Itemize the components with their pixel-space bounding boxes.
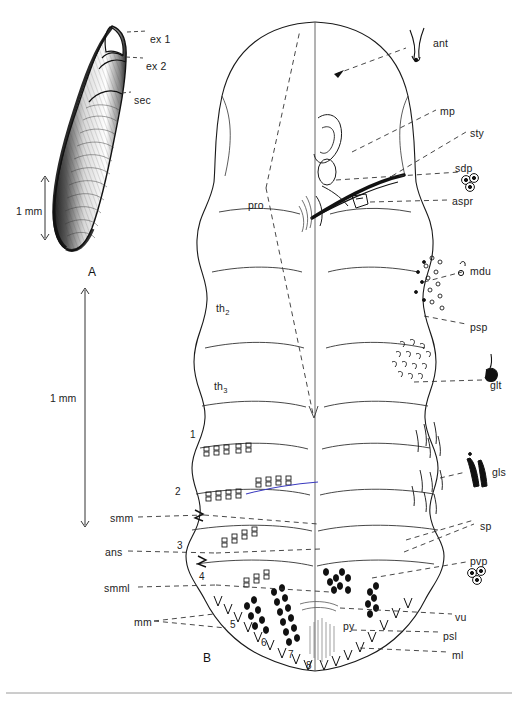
segment-number-3: 3 [177,541,183,551]
segment-number-7: 7 [288,650,294,660]
blue-annotation-line [246,482,318,494]
label-py: py [343,621,355,632]
label-ml: ml [452,650,463,661]
label-sp: sp [480,521,492,532]
label-th2-base: th [216,302,225,314]
label-mdu: mdu [470,266,491,277]
label-th3: th3 [214,381,228,395]
scalebar-b [81,288,89,527]
label-th2: th2 [216,303,230,317]
segment-number-8: 8 [306,661,312,671]
label-sdp: sdp [455,163,473,174]
duct-clusters-right [300,256,444,617]
aspiracle-icon [352,194,368,208]
label-ans: ans [105,547,123,558]
segment-number-2: 2 [175,487,181,497]
label-mm: mm [134,617,152,628]
pygidial-fringe [214,596,412,670]
label-th3-subscript: 3 [223,386,227,395]
segment-number-5: 5 [230,620,236,630]
label-smml: smml [104,583,130,594]
segment-number-1: 1 [190,430,196,440]
mdu-icon [458,262,465,276]
segment-number-4: 4 [199,572,205,582]
mouthparts-group [299,28,424,232]
label-pro: pro [248,200,264,211]
antenna-icon [410,28,424,62]
label-sec: sec [134,95,151,106]
segment-number-6: 6 [261,638,267,648]
panel-a-artwork [54,26,127,251]
label-mp: mp [440,106,455,117]
label-ex1: ex 1 [150,34,171,45]
panel-b-artwork [186,22,444,671]
figure-canvas: ex 1 ex 2 sec 1 mm 1 mm A B smm ans smml… [0,0,525,705]
label-smm: smm [110,513,133,524]
label-psp: psp [470,322,488,333]
label-ex2: ex 2 [146,61,167,72]
label-aspr: aspr [452,196,473,207]
mp-arrow-tip [334,70,344,78]
label-ant: ant [433,38,448,49]
panel-label-a: A [88,265,96,279]
glt-icon [485,354,497,382]
duct-clusters-left [204,443,300,645]
pvp-pore-icon [468,567,486,585]
label-th2-subscript: 2 [225,308,229,317]
label-vu: vu [455,612,467,623]
label-pvp: pvp [470,556,488,567]
gls-icon [467,453,487,487]
label-sty: sty [470,128,484,139]
scalebar-a-label: 1 mm [16,205,42,217]
median-lobes [310,618,334,662]
sdp-pore-icon [462,174,479,192]
label-glt: glt [490,380,502,391]
label-psl: psl [443,631,457,642]
label-gls: gls [492,467,506,478]
label-th3-base: th [214,380,223,392]
panel-label-b: B [203,651,211,665]
scalebar-b-label: 1 mm [50,392,76,404]
